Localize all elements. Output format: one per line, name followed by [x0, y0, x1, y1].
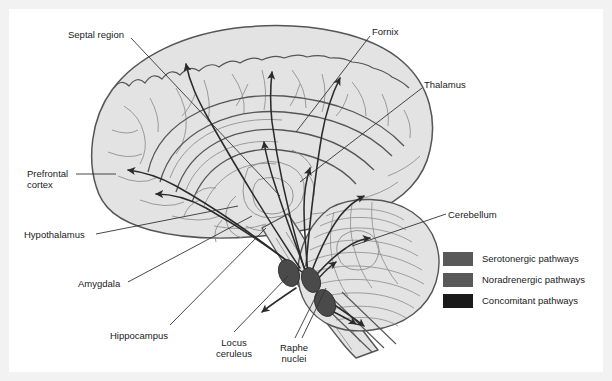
label-cerebellum: Cerebellum: [448, 209, 497, 220]
noradrenergic-swatch: [443, 273, 473, 287]
label-septal-region: Septal region: [68, 29, 124, 40]
label-locus-ceruleus: Locusceruleus: [200, 337, 268, 359]
label-amygdala: Amygdala: [78, 278, 120, 289]
concomitant-swatch: [443, 294, 473, 308]
legend-label-concomitant: Concomitant pathways: [482, 295, 578, 306]
label-raphe-nuclei: Raphenuclei: [266, 342, 322, 364]
label-prefrontal-cortex: Prefrontalcortex: [27, 168, 68, 190]
legend-label-serotonergic: Serotonergic pathways: [482, 253, 579, 264]
legend-label-noradrenergic: Noradrenergic pathways: [482, 274, 585, 285]
label-thalamus: Thalamus: [424, 79, 466, 90]
label-hypothalamus: Hypothalamus: [24, 229, 85, 240]
brain-pathway-illustration: [0, 0, 612, 381]
label-hippocampus: Hippocampus: [110, 330, 168, 341]
serotonergic-swatch: [443, 252, 473, 266]
figure-page: Septal region Fornix Thalamus Prefrontal…: [0, 0, 612, 381]
leader-hippocampus: [170, 228, 266, 325]
label-fornix: Fornix: [372, 26, 398, 37]
legend: Serotonergic pathways Noradrenergic path…: [437, 245, 603, 311]
leader-locus-ceruleus: [234, 276, 288, 332]
